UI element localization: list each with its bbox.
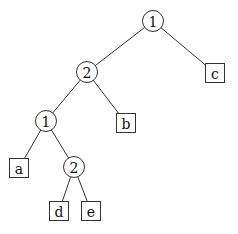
node-label: 2 [83,65,92,81]
internal-node: 1 [36,111,57,132]
node-label: 1 [42,114,51,130]
node-label: b [122,116,131,132]
node-label: d [55,204,64,220]
node-label: a [15,161,23,177]
node-label: 1 [149,14,158,30]
leaf-node: e [82,202,101,221]
leaf-node: c [206,64,225,83]
internal-node: 2 [64,157,85,178]
leaf-node: b [117,114,136,133]
leaf-node: d [50,202,69,221]
node-label: 2 [70,160,79,176]
node-label: e [87,204,95,220]
tree-diagram: 12c1ba2de [0,0,238,234]
nodes-layer: 12c1ba2de [10,11,225,221]
internal-node: 1 [143,11,164,32]
edge-n1-n2 [87,21,153,72]
leaf-node: a [10,159,29,178]
node-label: c [211,66,219,82]
internal-node: 2 [77,62,98,83]
